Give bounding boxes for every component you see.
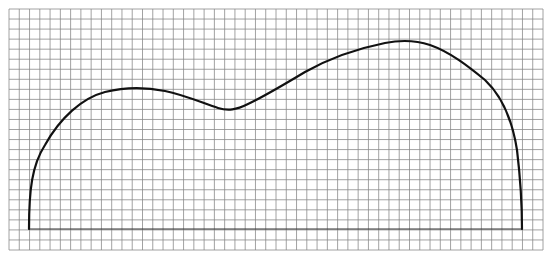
graph-paper-grid xyxy=(9,9,543,250)
grid-curve-figure xyxy=(0,0,553,261)
